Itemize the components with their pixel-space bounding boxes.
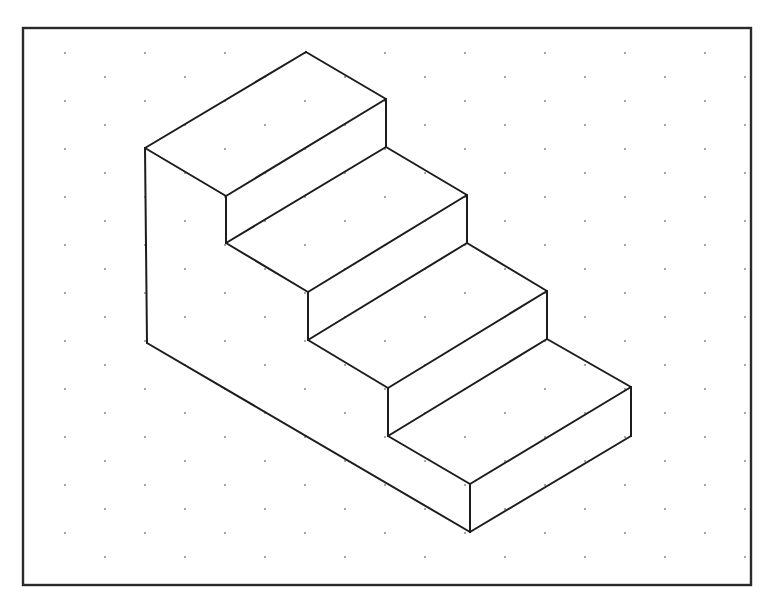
grid-dot bbox=[224, 292, 226, 294]
grid-dot bbox=[184, 220, 186, 222]
grid-dot bbox=[664, 268, 666, 270]
grid-dot bbox=[544, 52, 546, 54]
grid-dot bbox=[184, 460, 186, 462]
grid-dot bbox=[664, 460, 666, 462]
grid-dot bbox=[344, 364, 346, 366]
grid-dot bbox=[744, 124, 746, 126]
grid-dot bbox=[344, 508, 346, 510]
grid-dot bbox=[224, 340, 226, 342]
grid-dot bbox=[64, 292, 66, 294]
grid-dot bbox=[64, 148, 66, 150]
grid-dot bbox=[664, 508, 666, 510]
grid-dot bbox=[544, 148, 546, 150]
grid-dot bbox=[384, 436, 386, 438]
grid-dot bbox=[184, 508, 186, 510]
grid-dot bbox=[64, 340, 66, 342]
grid-dot bbox=[424, 316, 426, 318]
grid-dot bbox=[264, 508, 266, 510]
grid-dot bbox=[704, 52, 706, 54]
grid-dot bbox=[744, 76, 746, 78]
grid-dot bbox=[744, 220, 746, 222]
grid-dot bbox=[424, 508, 426, 510]
grid-dot bbox=[624, 148, 626, 150]
grid-dot bbox=[504, 556, 506, 558]
grid-dot bbox=[664, 172, 666, 174]
grid-dot bbox=[464, 52, 466, 54]
grid-dot bbox=[184, 268, 186, 270]
grid-dot bbox=[504, 412, 506, 414]
grid-dot bbox=[704, 436, 706, 438]
grid-dot bbox=[664, 364, 666, 366]
grid-dot bbox=[64, 100, 66, 102]
grid-dot bbox=[144, 52, 146, 54]
grid-dot bbox=[224, 52, 226, 54]
grid-dot bbox=[544, 244, 546, 246]
grid-dot bbox=[624, 436, 626, 438]
grid-dot bbox=[664, 316, 666, 318]
grid-dot bbox=[584, 172, 586, 174]
grid-dot bbox=[624, 532, 626, 534]
grid-dot bbox=[584, 508, 586, 510]
grid-dot bbox=[624, 484, 626, 486]
grid-dot bbox=[624, 52, 626, 54]
grid-dot bbox=[104, 508, 106, 510]
grid-dot bbox=[184, 76, 186, 78]
grid-dot bbox=[304, 532, 306, 534]
grid-dot bbox=[504, 220, 506, 222]
grid-dot bbox=[624, 340, 626, 342]
grid-dot bbox=[744, 364, 746, 366]
grid-dot bbox=[384, 340, 386, 342]
grid-dot bbox=[384, 196, 386, 198]
grid-dot bbox=[544, 100, 546, 102]
grid-dot bbox=[104, 172, 106, 174]
grid-dot bbox=[104, 556, 106, 558]
grid-dot bbox=[664, 556, 666, 558]
grid-dot bbox=[744, 316, 746, 318]
grid-dot bbox=[144, 100, 146, 102]
grid-dot bbox=[64, 484, 66, 486]
grid-dot bbox=[344, 412, 346, 414]
grid-dot bbox=[224, 148, 226, 150]
grid-dot bbox=[464, 532, 466, 534]
grid-dot bbox=[664, 220, 666, 222]
grid-dot bbox=[744, 460, 746, 462]
grid-dot bbox=[464, 484, 466, 486]
grid-dot bbox=[464, 292, 466, 294]
grid-dot bbox=[704, 244, 706, 246]
grid-dot bbox=[144, 484, 146, 486]
grid-dot bbox=[264, 268, 266, 270]
grid-dot bbox=[64, 244, 66, 246]
grid-dot bbox=[304, 388, 306, 390]
grid-dot bbox=[64, 436, 66, 438]
grid-dot bbox=[64, 388, 66, 390]
grid-dot bbox=[104, 268, 106, 270]
grid-dot bbox=[504, 268, 506, 270]
grid-dot bbox=[504, 76, 506, 78]
grid-dot bbox=[624, 196, 626, 198]
grid-dot bbox=[384, 388, 386, 390]
grid-dot bbox=[184, 316, 186, 318]
grid-dot bbox=[744, 556, 746, 558]
grid-dot bbox=[144, 388, 146, 390]
grid-dot bbox=[424, 460, 426, 462]
grid-dot bbox=[144, 532, 146, 534]
grid-dot bbox=[584, 460, 586, 462]
grid-dot bbox=[584, 556, 586, 558]
grid-dot bbox=[744, 268, 746, 270]
grid-dot bbox=[624, 292, 626, 294]
grid-dot bbox=[104, 316, 106, 318]
grid-dot bbox=[704, 292, 706, 294]
grid-dot bbox=[464, 100, 466, 102]
grid-dot bbox=[64, 196, 66, 198]
grid-dot bbox=[584, 220, 586, 222]
grid-dot bbox=[624, 100, 626, 102]
grid-dot bbox=[344, 220, 346, 222]
grid-dot bbox=[424, 172, 426, 174]
grid-dot bbox=[304, 340, 306, 342]
grid-dot bbox=[744, 508, 746, 510]
grid-dot bbox=[664, 76, 666, 78]
grid-dot bbox=[504, 124, 506, 126]
grid-dot bbox=[184, 556, 186, 558]
grid-dot bbox=[264, 460, 266, 462]
grid-dot bbox=[664, 412, 666, 414]
